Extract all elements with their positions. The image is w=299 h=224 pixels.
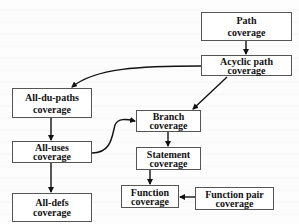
node-label-line1: All-defs — [35, 198, 68, 207]
node-label-line1: All-du-paths — [25, 93, 79, 102]
node-path-coverage: Path coverage — [201, 12, 292, 41]
node-statement-coverage: Statement coverage — [136, 147, 201, 170]
node-function-pair-coverage: Function pair coverage — [195, 187, 274, 210]
edge-alluses-to-branch — [92, 120, 135, 153]
node-label-line1: Path — [237, 16, 257, 25]
node-label-line2: coverage — [33, 105, 71, 114]
node-all-defs-coverage: All-defs coverage — [12, 193, 92, 222]
node-all-uses-coverage: All-uses coverage — [12, 141, 92, 163]
edge-acyclic-to-alldupaths — [72, 66, 201, 87]
node-label-line2: coverage — [131, 197, 169, 206]
node-label-line2: coverage — [228, 28, 266, 37]
node-function-coverage: Function coverage — [121, 185, 179, 208]
node-label-line2: coverage — [33, 152, 71, 161]
edge-acyclic-to-branch — [193, 77, 227, 109]
node-all-du-paths-coverage: All-du-paths coverage — [12, 88, 92, 118]
node-label-line2: coverage — [150, 159, 188, 168]
node-label-line2: coverage — [228, 66, 266, 75]
node-branch-coverage: Branch coverage — [136, 110, 201, 132]
node-label-line2: coverage — [33, 208, 71, 217]
node-acyclic-path-coverage: Acyclic path coverage — [201, 55, 292, 76]
node-label-line2: coverage — [150, 121, 188, 130]
node-label-line2: coverage — [216, 199, 254, 208]
